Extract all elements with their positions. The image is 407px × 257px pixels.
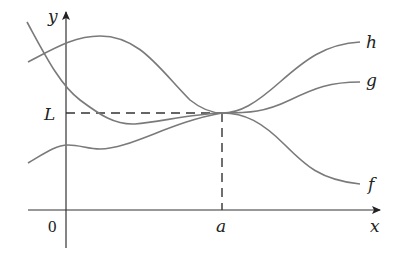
h-label: h xyxy=(366,32,377,52)
y-axis-label: y xyxy=(47,6,58,26)
squeeze-theorem-diagram: y x 0 a L h g f xyxy=(0,0,407,257)
g-label: g xyxy=(366,70,377,90)
curve-h xyxy=(28,36,360,113)
x-axis-label: x xyxy=(370,216,380,236)
a-label: a xyxy=(216,216,226,236)
curve-g xyxy=(28,82,360,163)
f-label: f xyxy=(366,174,377,194)
origin-label: 0 xyxy=(48,217,57,236)
L-label: L xyxy=(43,104,55,124)
